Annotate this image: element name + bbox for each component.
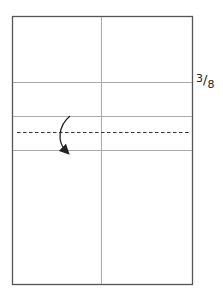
- fold-diagram: [0, 0, 223, 299]
- fraction-numerator: 3: [196, 72, 203, 85]
- fraction-label: 3/8: [196, 72, 214, 87]
- fraction-denominator: 8: [207, 78, 214, 91]
